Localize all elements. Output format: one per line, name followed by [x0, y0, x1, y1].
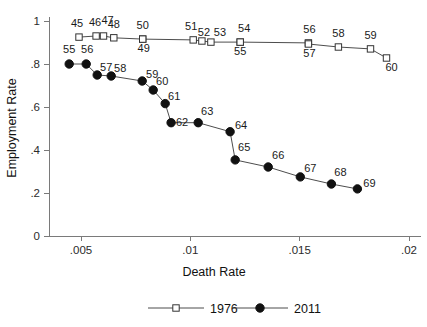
point-label-2011-69: 69 [363, 177, 375, 189]
point-label-1976-54: 54 [238, 22, 250, 34]
data-point-2011-62 [167, 119, 175, 127]
x-tick-label: .02 [401, 244, 417, 256]
legend-marker-2011 [256, 304, 264, 312]
data-point-2011-55 [65, 60, 73, 68]
y-tick-label: .6 [30, 101, 40, 113]
data-point-1976-47 [100, 33, 106, 39]
point-label-1976-49: 49 [138, 42, 150, 54]
point-label-1976-51: 51 [185, 20, 197, 32]
point-label-1976-55: 55 [234, 45, 246, 57]
point-label-1976-46: 46 [89, 16, 101, 28]
point-label-2011-65: 65 [238, 141, 250, 153]
data-point-2011-63 [194, 119, 202, 127]
legend-label-2011: 2011 [294, 302, 321, 316]
point-label-2011-60: 60 [156, 75, 168, 87]
x-tick-label: .015 [288, 244, 310, 256]
y-tick-label: .4 [30, 144, 40, 156]
point-label-2011-58: 58 [114, 62, 126, 74]
point-label-2011-67: 67 [304, 162, 316, 174]
data-point-2011-66 [264, 163, 272, 171]
point-label-1976-57: 57 [303, 47, 315, 59]
data-point-1976-46 [93, 33, 99, 39]
data-point-1976-48 [111, 35, 117, 41]
y-tick-label: .2 [30, 187, 40, 199]
point-label-2011-57: 57 [100, 61, 112, 73]
point-label-2011-66: 66 [272, 149, 284, 161]
point-label-1976-53: 53 [214, 26, 226, 38]
point-label-1976-52: 52 [198, 26, 210, 38]
point-label-1976-58: 58 [332, 27, 344, 39]
point-label-2011-63: 63 [201, 105, 213, 117]
point-label-2011-61: 61 [168, 90, 180, 102]
x-tick-label: .005 [70, 244, 92, 256]
data-point-1976-45 [76, 34, 82, 40]
point-label-2011-64: 64 [235, 119, 247, 131]
data-point-1976-52 [199, 38, 205, 44]
data-point-2011-64 [226, 128, 234, 136]
data-point-2011-56 [82, 60, 90, 68]
point-label-1976-60: 60 [385, 61, 397, 73]
y-tick-label: .8 [30, 58, 40, 70]
point-label-1976-48: 48 [108, 18, 120, 30]
x-axis-title: Death Rate [182, 265, 245, 279]
y-axis-title: Employment Rate [5, 78, 19, 177]
point-label-2011-68: 68 [334, 166, 346, 178]
point-label-1976-59: 59 [364, 29, 376, 41]
data-point-2011-65 [231, 156, 239, 164]
data-point-1976-51 [190, 37, 196, 43]
x-tick-label: .01 [182, 244, 198, 256]
scatter-plot: 0.2.4.6.81.005.01.015.02 454647484950515… [0, 0, 427, 327]
data-point-1976-53 [208, 39, 214, 45]
legend-marker-1976 [173, 305, 179, 311]
point-label-2011-62: 62 [176, 116, 188, 128]
point-label-1976-56: 56 [303, 23, 315, 35]
data-point-1976-58 [335, 44, 341, 50]
point-label-1976-45: 45 [71, 17, 83, 29]
data-point-2011-60 [149, 86, 157, 94]
data-point-2011-68 [327, 180, 335, 188]
data-point-2011-67 [296, 173, 304, 181]
y-tick-label: 1 [34, 15, 40, 27]
chart-legend: 19762011 [148, 302, 321, 316]
chart-figure: 0.2.4.6.81.005.01.015.02 454647484950515… [0, 0, 427, 327]
data-point-2011-69 [353, 185, 361, 193]
y-tick-label: 0 [34, 230, 40, 242]
data-point-1976-59 [367, 46, 373, 52]
point-label-2011-56: 56 [81, 43, 93, 55]
point-label-2011-55: 55 [63, 43, 75, 55]
point-label-1976-50: 50 [137, 19, 149, 31]
